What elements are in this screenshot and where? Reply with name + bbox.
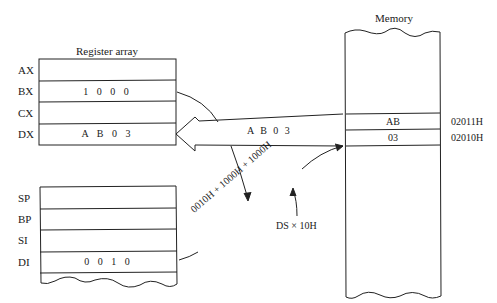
segment-note: DS × 10H — [276, 220, 317, 231]
memory-address-02011h: 02011H — [451, 116, 483, 127]
register-value-di: 0 0 1 0 — [40, 256, 177, 267]
memory-address-02010h: 02010H — [451, 132, 483, 143]
memory-cell-02010h: 03 — [346, 132, 440, 143]
memory-cell-02011h: AB — [346, 116, 440, 127]
register-label-sp: SP — [18, 192, 30, 204]
register-value-dx: A B 0 3 — [39, 128, 176, 139]
register-label-si: SI — [18, 234, 28, 246]
register-label-ax: AX — [18, 64, 34, 76]
memory-column — [345, 28, 441, 298]
register-label-di: DI — [18, 256, 30, 268]
register-label-bx: BX — [18, 85, 33, 97]
register-value-bx: 1 0 0 0 — [39, 86, 176, 97]
register-label-dx: DX — [18, 128, 34, 140]
register-array-title: Register array — [76, 45, 138, 57]
register-label-cx: CX — [18, 107, 33, 119]
register-label-bp: BP — [18, 213, 31, 225]
memory-title: Memory — [375, 12, 413, 24]
data-arrow-label: A B 0 3 — [247, 125, 292, 136]
